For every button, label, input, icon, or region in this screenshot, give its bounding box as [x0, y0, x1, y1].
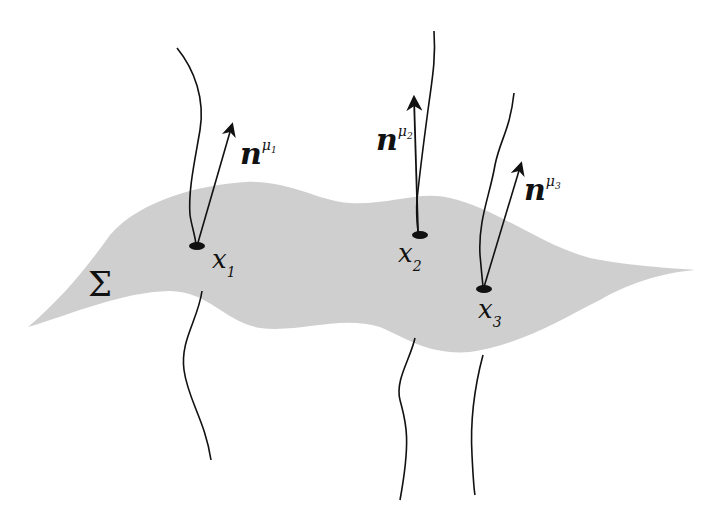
- point-x2-dot: [412, 231, 428, 239]
- point-x1-dot: [189, 242, 205, 250]
- worldline-3-lower: [472, 355, 483, 495]
- point-x3-dot: [476, 285, 492, 293]
- normal-3-label: nμ3: [524, 172, 561, 207]
- sigma-label: Σ: [88, 264, 112, 304]
- worldline-2-lower: [399, 338, 415, 500]
- spacetime-hypersurface-diagram: Σ x1 x2 x3 nμ1 nμ2 nμ3: [0, 0, 713, 524]
- hypersurface-sigma: [28, 182, 695, 353]
- worldline-1-lower: [183, 291, 211, 460]
- normal-1-label: nμ1: [240, 136, 277, 171]
- normal-2-label: nμ2: [376, 122, 413, 157]
